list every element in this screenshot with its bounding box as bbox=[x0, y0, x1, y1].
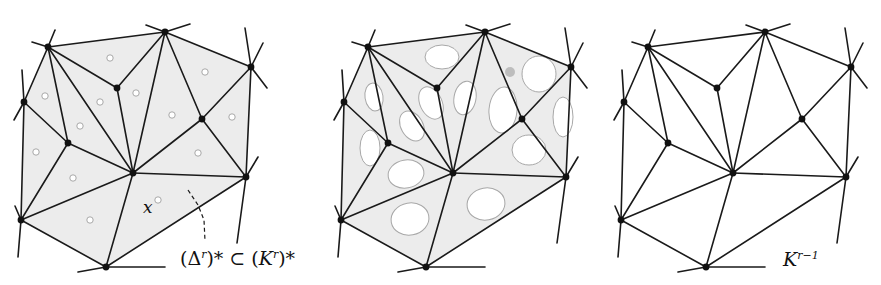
edge-stub bbox=[237, 177, 246, 243]
edge-stub bbox=[246, 157, 258, 177]
small-cycle bbox=[70, 175, 76, 181]
edge-stub bbox=[566, 157, 578, 177]
edge bbox=[621, 102, 624, 220]
edge-stub bbox=[571, 43, 583, 67]
vertex-K bbox=[703, 264, 710, 271]
small-cycle bbox=[33, 149, 39, 155]
edge bbox=[733, 173, 846, 177]
edge bbox=[717, 32, 765, 88]
vertex-G bbox=[730, 170, 737, 177]
vertex-I bbox=[563, 174, 570, 181]
vertex-D bbox=[621, 99, 628, 106]
edge-stub bbox=[251, 43, 263, 67]
vertex-B bbox=[762, 29, 769, 36]
vertex-K bbox=[103, 264, 110, 271]
vertex-J bbox=[18, 217, 25, 224]
edge-stub bbox=[165, 24, 190, 32]
edge bbox=[624, 47, 648, 102]
edge-stub bbox=[837, 177, 846, 243]
edge bbox=[802, 67, 851, 119]
edge-stub bbox=[485, 24, 510, 32]
vertex-E bbox=[434, 85, 441, 92]
small-cycle bbox=[97, 99, 103, 105]
vertex-F bbox=[385, 140, 392, 147]
vertex-I bbox=[843, 174, 850, 181]
large-cycle bbox=[512, 135, 546, 165]
edge bbox=[648, 47, 717, 88]
edge bbox=[802, 119, 846, 177]
edge-stub bbox=[557, 177, 566, 243]
vertex-B bbox=[162, 29, 169, 36]
edge-stub bbox=[78, 267, 106, 272]
edge-stub bbox=[342, 70, 344, 102]
edge-stub bbox=[845, 28, 851, 67]
k-r-minus-1-label: Kr−1 bbox=[783, 248, 819, 270]
vertex-F bbox=[665, 140, 672, 147]
vertex-E bbox=[114, 85, 121, 92]
small-cycle bbox=[87, 217, 93, 223]
vertex-C bbox=[848, 64, 855, 71]
vertex-H bbox=[799, 116, 806, 123]
vertex-J bbox=[338, 217, 345, 224]
edge-stub bbox=[678, 267, 706, 272]
edge bbox=[621, 220, 706, 267]
large-cycle bbox=[522, 56, 556, 92]
edge-stub bbox=[245, 28, 251, 67]
small-cycle bbox=[77, 123, 83, 129]
small-cycle bbox=[42, 93, 48, 99]
edge-stub bbox=[571, 67, 587, 88]
shaded-region bbox=[21, 32, 251, 267]
edge-stub bbox=[565, 28, 571, 67]
vertex-D bbox=[21, 99, 28, 106]
triangulation-figure bbox=[0, 0, 881, 285]
small-cycle bbox=[155, 197, 161, 203]
vertex-B bbox=[482, 29, 489, 36]
vertex-A bbox=[45, 44, 52, 51]
panel-enlarged-cycles bbox=[334, 24, 587, 272]
vertex-H bbox=[519, 116, 526, 123]
vertex-I bbox=[243, 174, 250, 181]
vertex-K bbox=[423, 264, 430, 271]
small-cycle bbox=[133, 90, 139, 96]
edge-stub bbox=[622, 70, 624, 102]
edge-stub bbox=[22, 70, 24, 102]
panel-dual-complex bbox=[14, 24, 267, 272]
dual-inclusion-label: (Δr)* ⊂ (Kr)* bbox=[180, 247, 295, 269]
small-cycle bbox=[195, 150, 201, 156]
vertex-C bbox=[248, 64, 255, 71]
edge-stub bbox=[18, 220, 21, 257]
edge-stub bbox=[618, 220, 621, 257]
edge bbox=[621, 143, 668, 220]
edge-stub bbox=[846, 157, 858, 177]
small-cycle bbox=[229, 114, 235, 120]
large-cycle bbox=[425, 45, 459, 69]
edge bbox=[648, 32, 765, 47]
small-cycle bbox=[202, 69, 208, 75]
edge-stub bbox=[765, 24, 790, 32]
vertex-A bbox=[645, 44, 652, 51]
panel-k-r-minus-1 bbox=[614, 24, 867, 272]
edge bbox=[621, 173, 733, 220]
edge-stub bbox=[398, 267, 426, 272]
vertex-A bbox=[365, 44, 372, 51]
vertex-H bbox=[199, 116, 206, 123]
edge-stub bbox=[851, 43, 863, 67]
vertex-C bbox=[568, 64, 575, 71]
edge bbox=[706, 177, 846, 267]
vertex-F bbox=[65, 140, 72, 147]
vertex-E bbox=[714, 85, 721, 92]
edge-stub bbox=[251, 67, 267, 88]
small-cycle bbox=[107, 55, 113, 61]
edge-stub bbox=[851, 67, 867, 88]
smudge bbox=[505, 67, 515, 77]
small-cycle bbox=[169, 112, 175, 118]
vertex-J bbox=[618, 217, 625, 224]
edge-stub bbox=[338, 220, 341, 257]
edge bbox=[846, 67, 851, 177]
vertex-G bbox=[450, 170, 457, 177]
point-x-label: x bbox=[143, 197, 153, 217]
vertex-D bbox=[341, 99, 348, 106]
vertex-G bbox=[130, 170, 137, 177]
